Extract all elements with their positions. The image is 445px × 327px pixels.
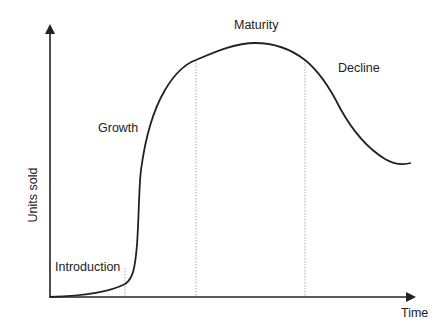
label-growth: Growth <box>98 121 138 135</box>
label-decline: Decline <box>338 61 380 75</box>
stage-dividers <box>125 60 305 297</box>
product-life-cycle-diagram: Introduction Growth Maturity Decline Tim… <box>0 0 445 327</box>
label-maturity: Maturity <box>234 18 279 32</box>
label-introduction: Introduction <box>55 260 120 274</box>
y-axis-label: Units sold <box>26 168 40 223</box>
sales-curve <box>50 43 411 297</box>
x-axis-label: Time <box>401 306 428 320</box>
